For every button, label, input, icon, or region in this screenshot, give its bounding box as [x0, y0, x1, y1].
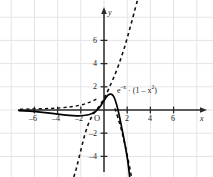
origin-label: O	[94, 114, 100, 122]
dashed-left-tail	[20, 99, 98, 110]
grid-lines	[0, 0, 213, 177]
solid-curve-exp-times-one-minus-x-squared	[19, 94, 130, 177]
y-axis	[101, 7, 107, 172]
x-tick-label--4: –4	[52, 115, 60, 123]
y-tick-label-6: 6	[93, 37, 97, 45]
x-axis-name: x	[200, 115, 204, 123]
formula-tail: )	[154, 86, 157, 95]
function-plot-figure: –6 –4 –2 2 4 6 6 4 2 –2 –4 O x y e–x · (…	[0, 0, 213, 177]
x-tick-label--2: –2	[75, 115, 83, 123]
y-axis-arrow	[101, 7, 107, 14]
y-tick-label-2: 2	[93, 83, 97, 91]
x-tick-label-6: 6	[171, 115, 175, 123]
y-tick-label--2: –2	[89, 130, 97, 138]
x-tick-label--6: –6	[29, 115, 37, 123]
x-tick-label-4: 4	[148, 115, 152, 123]
y-tick-label-4: 4	[93, 60, 97, 68]
formula-rest: · (1 – x	[126, 86, 151, 95]
y-axis-name: y	[108, 9, 112, 17]
x-axis-arrow	[200, 107, 207, 113]
x-tick-label-2: 2	[125, 115, 129, 123]
curve-formula-label: e–x · (1 – x2)	[117, 86, 157, 95]
y-tick-label--4: –4	[89, 153, 97, 161]
plot-canvas	[0, 0, 213, 177]
